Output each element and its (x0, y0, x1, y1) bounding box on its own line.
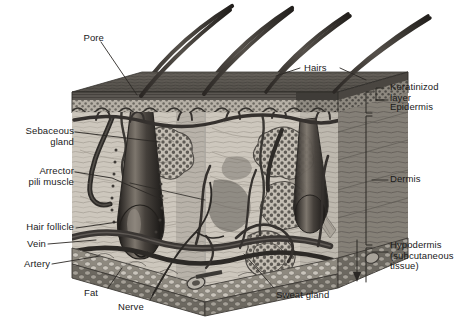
label-nerve: Nerve (118, 302, 158, 313)
label-sebaceous-gland: Sebaceous gland (4, 126, 74, 147)
skin-anatomy-figure: Pore Hairs Keratinizod layer Epidermis D… (0, 0, 467, 328)
label-epidermis: Epidermis (390, 102, 460, 113)
label-artery: Artery (4, 259, 50, 270)
label-hypodermis: Hypodermis (subcutaneous tissue) (390, 240, 466, 272)
label-fat: Fat (84, 288, 114, 299)
skin-diagram-svg (0, 0, 467, 328)
label-hairs: Hairs (304, 63, 338, 74)
label-keratinized-layer: Keratinizod layer (390, 82, 464, 103)
label-hair-follicle: Hair follicle (2, 222, 74, 233)
label-arrector-pili-muscle: Arrector pili muscle (4, 166, 74, 187)
label-dermis: Dermis (390, 174, 450, 185)
label-pore: Pore (60, 33, 104, 44)
label-sweat-gland: Sweat gland (276, 290, 348, 301)
label-vein: Vein (6, 239, 46, 250)
